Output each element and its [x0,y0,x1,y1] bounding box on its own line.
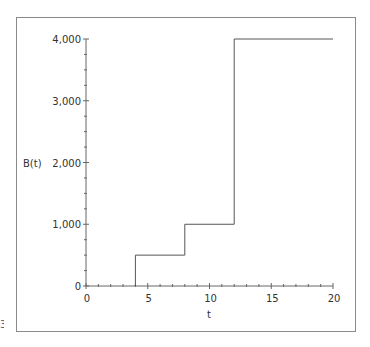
x-tick-label: 20 [328,293,341,304]
ticks [83,39,333,289]
x-tick-label: 15 [266,293,279,304]
y-tick-label: 2,000 [52,158,81,169]
x-axis-label: t [207,309,211,320]
x-tick-label: 5 [146,293,152,304]
series-line [135,39,333,286]
y-tick-label: 1,000 [52,219,81,230]
y-tick-label: 3,000 [52,96,81,107]
y-axis-label: B(t) [23,158,42,169]
axes [86,39,333,286]
y-tick-label: 4,000 [52,34,81,45]
tick-labels: 0510152001,0002,0003,0004,000 [52,34,340,304]
x-tick-label: 10 [204,293,217,304]
step-chart: 0510152001,0002,0003,0004,000 t B(t) [0,0,370,347]
series [135,39,333,286]
y-tick-label: 0 [75,281,81,292]
x-tick-label: 0 [84,293,90,304]
